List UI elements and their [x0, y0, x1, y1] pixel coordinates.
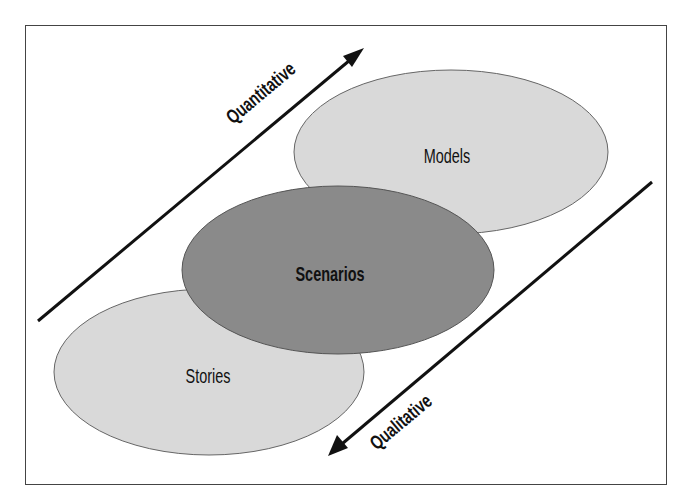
scenario-diagram: Quantitative Qualitative Models Stories … — [0, 0, 686, 503]
stories-label: Stories — [186, 365, 231, 388]
quantitative-label: Quantitative — [221, 57, 300, 128]
scenarios-label: Scenarios — [295, 263, 364, 286]
qualitative-label: Qualitative — [365, 389, 436, 454]
models-label: Models — [424, 145, 471, 168]
arrow-down-left-icon — [328, 435, 348, 456]
